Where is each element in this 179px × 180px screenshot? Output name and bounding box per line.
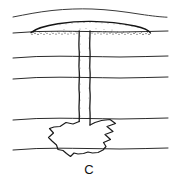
stem-wall-left	[79, 31, 80, 122]
stem-wall-right	[90, 31, 91, 125]
figure-panel: C	[0, 0, 179, 180]
figure-label: C	[84, 162, 93, 177]
figure-drawing: C	[0, 0, 179, 180]
